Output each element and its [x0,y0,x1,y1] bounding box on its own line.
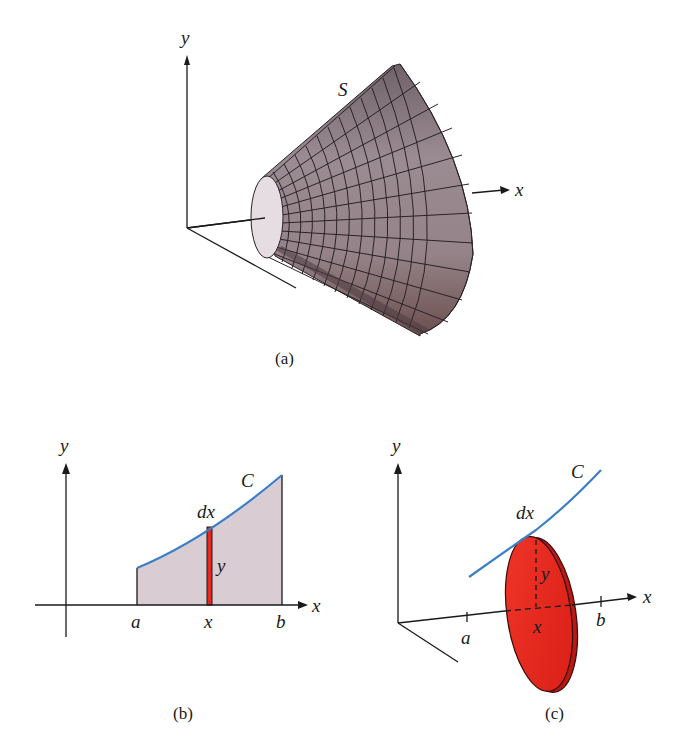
tick-label-b-b: b [276,611,286,632]
tick-label-a-c: a [461,627,471,648]
caption-a: (a) [275,349,294,368]
strip-dx [207,527,212,605]
caption-b: (b) [173,704,193,723]
z-axis-c [398,623,458,662]
disk-radius-label-y: y [539,563,550,584]
x-axis-a-front [472,190,504,193]
y-axis-arrow-icon [184,55,190,65]
x-axis-arrow-icon [500,186,510,194]
y-axis-label-b: y [58,435,69,456]
y-axis-arrow-icon [394,463,402,474]
surface-label-s: S [338,79,348,100]
curve-label-c-b: C [241,470,254,491]
figure-canvas: y x S (a) y x C dx y a x b (b) [0,0,694,749]
y-axis-arrow-icon [62,463,70,474]
x-axis-label-c: x [642,586,652,607]
curve-label-c-c: C [571,461,584,482]
tick-label-x-c: x [532,616,542,637]
disk-thickness-label-dx: dx [516,502,535,523]
panel-c: y x C dx y a x b (c) [390,435,652,723]
y-axis-label-a: y [179,27,190,48]
strip-width-label-dx: dx [197,501,216,522]
x-axis-c-back [398,611,505,623]
y-axis-label-c: y [390,435,401,456]
tick-label-b-c: b [596,609,606,630]
panel-b: y x C dx y a x b (b) [35,435,321,723]
caption-c: (c) [545,704,564,723]
surface-end-cap [251,176,283,258]
x-axis-arrow-icon [298,601,308,609]
tick-label-x-b: x [203,611,213,632]
strip-height-label-y: y [215,555,226,576]
x-axis-arrow-icon [627,593,637,601]
x-axis-label-a: x [514,179,524,200]
tick-label-a-b: a [131,611,141,632]
x-axis-label-b: x [311,595,321,616]
panel-a: y x S (a) [179,27,524,368]
